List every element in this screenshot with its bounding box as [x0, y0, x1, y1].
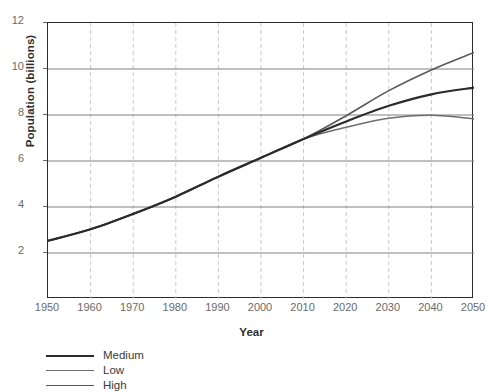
y-tick-mark	[43, 252, 47, 253]
legend-item-high[interactable]: High	[46, 378, 266, 392]
y-tick-mark	[43, 68, 47, 69]
legend-swatch-high	[46, 385, 94, 386]
chart-svg	[48, 23, 474, 299]
y-tick-mark	[43, 114, 47, 115]
legend-label: Low	[103, 363, 124, 378]
x-axis-title: Year	[0, 326, 503, 338]
chart-figure: Population (billions) 24681012 195019601…	[0, 0, 503, 392]
y-axis-title: Population (billions)	[24, 0, 36, 186]
y-tick-mark	[43, 160, 47, 161]
y-tick-mark	[43, 206, 47, 207]
legend-label: High	[103, 378, 127, 392]
legend-swatch-medium	[46, 355, 94, 357]
plot-area	[47, 22, 473, 298]
legend-item-medium[interactable]: Medium	[46, 348, 266, 363]
y-tick-mark	[43, 22, 47, 23]
chart-legend: MediumLowHigh	[46, 348, 266, 392]
legend-swatch-low	[46, 370, 94, 371]
legend-item-low[interactable]: Low	[46, 363, 266, 378]
legend-label: Medium	[103, 348, 144, 363]
